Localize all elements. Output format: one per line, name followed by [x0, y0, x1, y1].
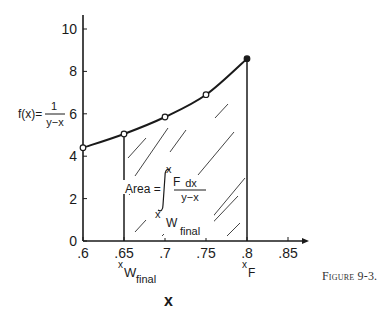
xw-subsub: final [136, 273, 156, 285]
data-point-markers [80, 56, 250, 151]
x-tick-label: .85 [278, 245, 298, 261]
y-tick-label: 4 [69, 148, 77, 164]
x-axis-title: x [164, 292, 173, 310]
data-point-marker [203, 92, 209, 98]
data-point-marker [80, 145, 86, 151]
data-point-marker [244, 56, 250, 62]
data-point-marker [162, 114, 168, 120]
ylabel-lhs: f(x)= [18, 107, 42, 121]
integrand-denominator: y−x [181, 191, 199, 203]
y-tick-label: 8 [69, 63, 77, 79]
integral-lower-subsub: final [180, 225, 200, 237]
data-curve [83, 59, 247, 148]
x-tick-label: .7 [159, 245, 171, 261]
xf-main: x [242, 259, 247, 270]
integral-upper: x [166, 163, 172, 175]
xf-label: x F [242, 259, 255, 280]
xf-sub: F [248, 266, 255, 280]
integral-lower-sub: W [166, 216, 178, 230]
figure-caption: Figure 9-3. [322, 269, 377, 284]
ylabel-numerator: 1 [51, 100, 57, 112]
xw-final-label: x W final [118, 259, 156, 285]
data-point-marker [121, 131, 127, 137]
x-axis-arrow-icon [302, 238, 309, 244]
y-tick-label: 6 [69, 106, 77, 122]
integral-lower: x [155, 208, 161, 220]
ylabel-denominator: y−x [46, 116, 64, 128]
y-tick-label: 2 [69, 191, 77, 207]
y-tick-label: 10 [61, 21, 77, 37]
xw-main: x [118, 259, 123, 270]
integral-upper-sub: F [173, 175, 180, 189]
x-tick-label: .75 [196, 245, 216, 261]
area-prefix: Area = [125, 182, 161, 196]
y-axis-label: f(x)= 1 y−x [18, 100, 65, 128]
x-tick-label: .6 [77, 245, 89, 261]
y-tick-label: 0 [69, 233, 77, 249]
integrand-numerator: dx [185, 177, 197, 189]
